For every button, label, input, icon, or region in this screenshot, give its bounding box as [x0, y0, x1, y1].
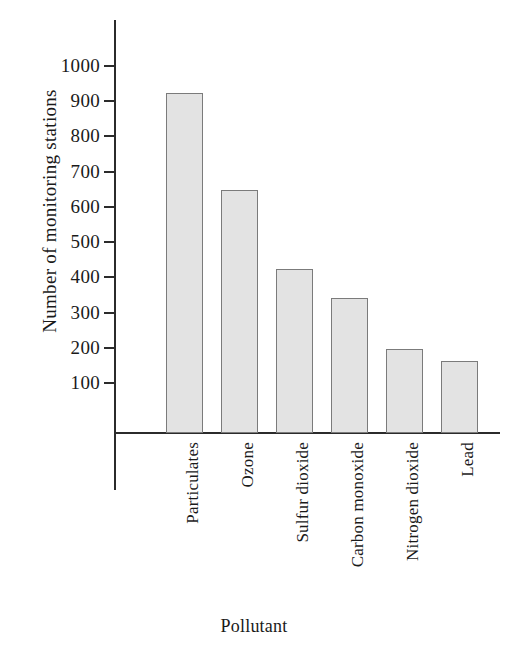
- y-tick-400: [104, 276, 115, 278]
- x-category-label-ozone: Ozone: [233, 442, 250, 487]
- x-category-label-carbon-monoxide: Carbon monoxide: [343, 442, 360, 567]
- bar-carbon-monoxide: [331, 298, 368, 433]
- bar-nitrogen-dioxide: [386, 349, 423, 433]
- x-category-label-particulates: Particulates: [178, 442, 195, 524]
- bar-lead: [441, 361, 478, 433]
- y-tick-300: [104, 312, 115, 314]
- y-tick-1000: [104, 65, 115, 67]
- bar-chart: 1000 900 800 700 600 500 400 300 200 100…: [0, 0, 508, 646]
- x-category-label-nitrogen-dioxide: Nitrogen dioxide: [398, 442, 415, 561]
- y-tick-900: [104, 100, 115, 102]
- y-axis-line: [114, 20, 116, 490]
- y-axis-title: Number of monitoring stations: [39, 41, 61, 381]
- x-category-label-sulfur-dioxide: Sulfur dioxide: [288, 442, 305, 543]
- y-tick-500: [104, 241, 115, 243]
- y-tick-100: [104, 382, 115, 384]
- bar-ozone: [221, 190, 258, 433]
- x-category-label-lead: Lead: [453, 442, 470, 477]
- y-tick-200: [104, 347, 115, 349]
- bar-particulates: [166, 93, 203, 433]
- y-tick-600: [104, 206, 115, 208]
- bar-sulfur-dioxide: [276, 269, 313, 433]
- y-tick-800: [104, 135, 115, 137]
- y-tick-700: [104, 171, 115, 173]
- x-axis-title: Pollutant: [0, 616, 508, 637]
